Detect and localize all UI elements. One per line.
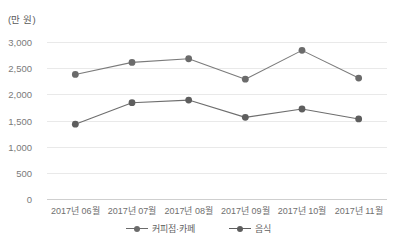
y-axis-tick-label: 0 bbox=[0, 194, 32, 205]
data-point-marker[interactable] bbox=[129, 59, 136, 66]
y-axis-tick-label: 1,000 bbox=[0, 141, 32, 152]
data-point-marker[interactable] bbox=[355, 75, 362, 82]
x-axis-tick-label: 2017년 06월 bbox=[51, 204, 100, 217]
data-point-marker[interactable] bbox=[129, 99, 136, 106]
x-axis-tick-label: 2017년 07월 bbox=[108, 204, 157, 217]
legend-item-2[interactable]: 음식 bbox=[229, 222, 271, 235]
data-point-marker[interactable] bbox=[355, 116, 362, 123]
data-point-marker[interactable] bbox=[242, 114, 249, 121]
legend-marker-icon bbox=[126, 224, 148, 233]
y-axis-tick-label: 3,000 bbox=[0, 37, 32, 48]
x-axis-tick-label: 2017년 08월 bbox=[164, 204, 213, 217]
series-2 bbox=[72, 97, 362, 128]
series-line bbox=[75, 100, 358, 124]
y-axis-unit-label: (만 원) bbox=[8, 12, 36, 26]
plot-area: 05001,0001,5002,0002,5003,000 2017년 06월2… bbox=[47, 42, 387, 199]
y-axis-tick-label: 500 bbox=[0, 167, 32, 178]
data-point-marker[interactable] bbox=[299, 106, 306, 113]
legend-label: 커피점·카페 bbox=[152, 222, 195, 235]
x-axis-tick-label: 2017년 10월 bbox=[278, 204, 327, 217]
series-layer bbox=[47, 42, 387, 199]
chart-legend: 커피점·카페음식 bbox=[0, 222, 397, 235]
data-point-marker[interactable] bbox=[72, 71, 79, 78]
x-axis-tick-label: 2017년 09월 bbox=[221, 204, 270, 217]
data-point-marker[interactable] bbox=[72, 121, 79, 128]
data-point-marker[interactable] bbox=[299, 47, 306, 54]
x-axis-tick-label: 2017년 11월 bbox=[335, 204, 383, 217]
series-line bbox=[75, 50, 358, 79]
legend-item-1[interactable]: 커피점·카페 bbox=[126, 222, 195, 235]
y-axis-tick-label: 1,500 bbox=[0, 115, 32, 126]
y-axis-tick-label: 2,500 bbox=[0, 63, 32, 74]
data-point-marker[interactable] bbox=[185, 97, 192, 104]
y-axis-tick-label: 2,000 bbox=[0, 89, 32, 100]
legend-label: 음식 bbox=[255, 222, 271, 235]
line-chart: (만 원) 05001,0001,5002,0002,5003,000 2017… bbox=[0, 0, 397, 248]
data-point-marker[interactable] bbox=[242, 76, 249, 83]
data-point-marker[interactable] bbox=[185, 55, 192, 62]
series-1 bbox=[72, 47, 362, 83]
legend-marker-icon bbox=[229, 224, 251, 233]
x-axis-line bbox=[47, 199, 387, 200]
